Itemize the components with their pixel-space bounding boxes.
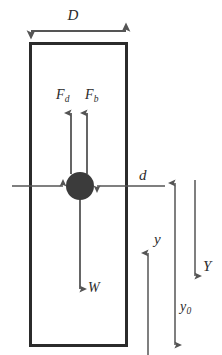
label-drag-force-symbol: F <box>56 87 65 102</box>
label-buoyant-force: Fb <box>85 88 99 104</box>
label-initial-position: y0 <box>180 300 191 316</box>
label-weight: W <box>88 281 100 295</box>
label-position: y <box>154 232 161 247</box>
label-drag-force: Fd <box>56 88 70 104</box>
particle-circle <box>66 172 94 200</box>
label-drag-force-subscript: d <box>65 94 70 104</box>
settling-particle-diagram: D Fd Fb d W y y0 Y <box>0 0 222 355</box>
label-particle-diameter: d <box>139 168 147 183</box>
label-buoyant-force-symbol: F <box>85 87 94 102</box>
label-buoyant-force-subscript: b <box>94 94 99 104</box>
label-column-width: D <box>68 8 79 23</box>
label-total-depth: Y <box>203 259 211 274</box>
label-initial-position-subscript: 0 <box>186 306 191 316</box>
